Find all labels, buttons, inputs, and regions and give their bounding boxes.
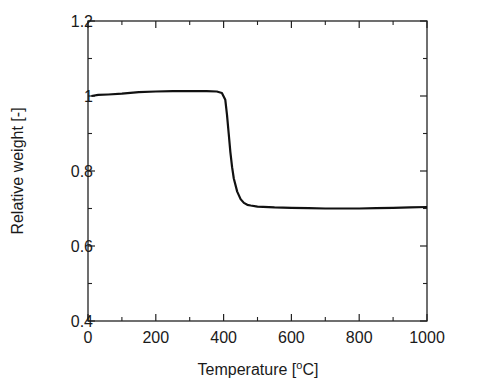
x-tick-label: 200 bbox=[142, 329, 169, 346]
tick-labels: 020040060080010000.40.60.811.2 bbox=[71, 13, 445, 346]
y-tick-label: 0.8 bbox=[71, 163, 93, 180]
x-tick-label: 800 bbox=[346, 329, 373, 346]
tga-chart: 020040060080010000.40.60.811.2 Temperatu… bbox=[0, 0, 478, 386]
x-tick-label: 1000 bbox=[409, 329, 445, 346]
y-tick-label: 1.2 bbox=[71, 13, 93, 30]
axis-ticks bbox=[88, 21, 427, 321]
y-tick-label: 0.6 bbox=[71, 238, 93, 255]
x-tick-label: 0 bbox=[84, 329, 93, 346]
y-tick-label: 0.4 bbox=[71, 313, 93, 330]
y-axis-title: Relative weight [-] bbox=[9, 107, 26, 234]
plot-frame bbox=[88, 21, 427, 321]
data-series bbox=[91, 91, 427, 208]
x-axis-title: Temperature [oC] bbox=[198, 359, 319, 378]
plot-border bbox=[88, 21, 427, 321]
x-tick-label: 400 bbox=[210, 329, 237, 346]
tga-curve bbox=[91, 91, 427, 208]
x-tick-label: 600 bbox=[278, 329, 305, 346]
